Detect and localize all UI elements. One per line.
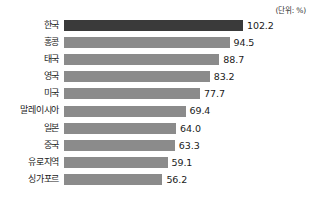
bar-row: 싱가포르 56.2 — [0, 171, 312, 188]
bar-track: 64.0 — [64, 120, 312, 137]
plot-area: 한국 102.2 홍콩 94.5 태국 88.7 영국 83.2 — [0, 17, 312, 195]
bar-row: 일본 64.0 — [0, 120, 312, 137]
value-label: 56.2 — [166, 171, 187, 188]
bar-track: 56.2 — [64, 171, 312, 188]
category-label: 일본 — [0, 120, 59, 137]
category-label: 말레이시아 — [0, 102, 59, 119]
category-label: 중국 — [0, 137, 59, 154]
value-label: 83.2 — [214, 68, 235, 85]
bar-track: 59.1 — [64, 154, 312, 171]
category-label: 미국 — [0, 85, 59, 102]
value-label: 63.3 — [179, 137, 200, 154]
bar-track: 94.5 — [64, 34, 312, 51]
bar-row: 태국 88.7 — [0, 51, 312, 68]
bar-track: 77.7 — [64, 85, 312, 102]
bar-row: 중국 63.3 — [0, 137, 312, 154]
bar-track: 83.2 — [64, 68, 312, 85]
bar-track: 63.3 — [64, 137, 312, 154]
bar — [64, 20, 243, 31]
bar — [64, 157, 168, 168]
bar — [64, 140, 175, 151]
bar — [64, 71, 210, 82]
value-label: 88.7 — [223, 51, 244, 68]
bar-row: 한국 102.2 — [0, 17, 312, 34]
value-label: 102.2 — [247, 17, 274, 34]
value-label: 94.5 — [234, 34, 255, 51]
value-label: 69.4 — [190, 102, 211, 119]
bar — [64, 54, 219, 65]
value-label: 77.7 — [204, 85, 225, 102]
bar — [64, 174, 162, 185]
category-label: 태국 — [0, 51, 59, 68]
bar-row: 유로지역 59.1 — [0, 154, 312, 171]
value-label: 64.0 — [180, 120, 201, 137]
bar-track: 88.7 — [64, 51, 312, 68]
category-label: 싱가포르 — [0, 171, 59, 188]
bar — [64, 106, 186, 117]
bar-row: 홍콩 94.5 — [0, 34, 312, 51]
category-label: 홍콩 — [0, 34, 59, 51]
category-label: 영국 — [0, 68, 59, 85]
bar — [64, 88, 200, 99]
bar-track: 69.4 — [64, 102, 312, 119]
bar-row: 영국 83.2 — [0, 68, 312, 85]
bar-chart: (단위: %) 한국 102.2 홍콩 94.5 태국 88.7 영국 — [0, 0, 312, 204]
bar-track: 102.2 — [64, 17, 312, 34]
category-label: 한국 — [0, 17, 59, 34]
bar-row: 말레이시아 69.4 — [0, 102, 312, 119]
unit-note: (단위: %) — [276, 4, 307, 15]
category-label: 유로지역 — [0, 154, 59, 171]
bar-row: 미국 77.7 — [0, 85, 312, 102]
bar — [64, 37, 230, 48]
value-label: 59.1 — [172, 154, 193, 171]
bar — [64, 123, 176, 134]
